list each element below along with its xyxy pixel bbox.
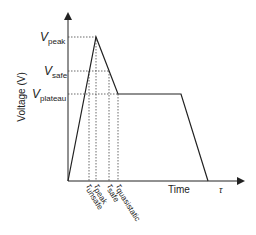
- v-plateau-label: Vplateau: [32, 87, 66, 103]
- x-axis-label: Time: [168, 184, 190, 195]
- voltage-time-diagram: Vpeak Vsafe Vplateau Voltage (V) Time τ …: [0, 0, 256, 235]
- tau-quasistatic-label: τquasistatic: [113, 182, 145, 223]
- y-axis-label: Voltage (V): [16, 72, 27, 121]
- tau-end-symbol: τ: [219, 185, 223, 195]
- vertical-guides: [89, 37, 118, 181]
- v-safe-label: Vsafe: [44, 64, 68, 80]
- v-peak-label: Vpeak: [40, 30, 66, 46]
- horizontal-guides: [68, 37, 118, 94]
